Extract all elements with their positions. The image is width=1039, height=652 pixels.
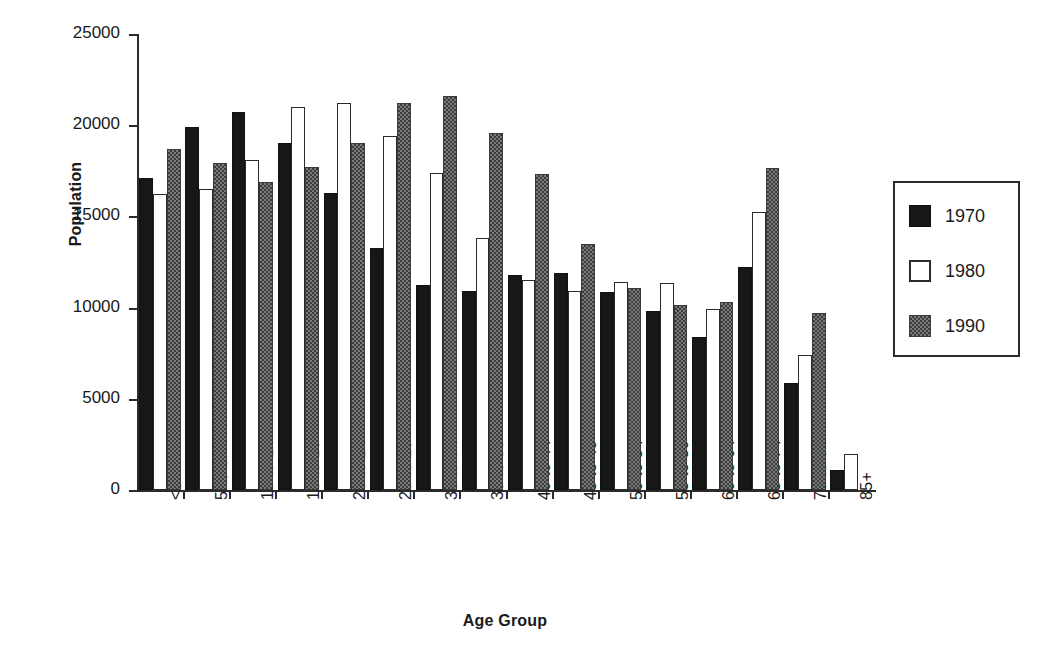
bar-group: [275, 34, 321, 490]
bar-group: [506, 34, 552, 490]
bar-group: [413, 34, 459, 490]
bar-group: [828, 34, 874, 490]
bar-group: [552, 34, 598, 490]
y-axis-tick-label: 10000: [30, 297, 120, 317]
bar-1970: [462, 291, 476, 490]
bar-group: [367, 34, 413, 490]
bar-group: [690, 34, 736, 490]
x-axis-category-label: 85+: [858, 472, 876, 500]
bar-1980: [522, 280, 536, 490]
legend-label-1990: 1990: [945, 316, 985, 337]
bar-group: [229, 34, 275, 490]
y-axis-tick-label: 25000: [30, 23, 120, 43]
bar-1990: [535, 174, 549, 490]
legend-label-1980: 1980: [945, 261, 985, 282]
bar-1980: [383, 136, 397, 490]
bar-1970: [692, 337, 706, 490]
bar-1970: [554, 273, 568, 490]
bar-group: [459, 34, 505, 490]
bar-1970: [324, 193, 338, 490]
bar-1970: [185, 127, 199, 490]
bar-1990: [213, 163, 227, 490]
bar-1980: [568, 291, 582, 490]
legend-swatch-1980: [909, 260, 931, 282]
bar-1980: [844, 454, 858, 490]
legend-swatch-1990: [909, 315, 931, 337]
bar-1970: [738, 267, 752, 490]
bar-group: [321, 34, 367, 490]
bar-1980: [199, 189, 213, 490]
bar-1980: [245, 160, 259, 490]
legend-item-1970: 1970: [909, 205, 985, 227]
bar-1990: [674, 305, 688, 490]
bar-1990: [397, 103, 411, 490]
bar-group: [644, 34, 690, 490]
legend-label-1970: 1970: [945, 206, 985, 227]
bar-1980: [476, 238, 490, 490]
bar-1990: [720, 302, 734, 490]
bar-1980: [153, 194, 167, 490]
bar-1990: [812, 313, 826, 490]
bar-1970: [416, 285, 430, 490]
bar-1990: [259, 182, 273, 490]
bar-1970: [784, 383, 798, 490]
y-axis-title: Population: [67, 134, 85, 274]
bar-1970: [232, 112, 246, 490]
y-axis-tick-label: 0: [30, 479, 120, 499]
bar-1970: [600, 292, 614, 490]
bar-1970: [508, 275, 522, 490]
y-axis-tick: 0: [129, 490, 139, 492]
plot-area: 0500010000150002000025000: [137, 34, 874, 491]
bar-1970: [139, 178, 153, 490]
population-by-age-group-bar-chart: Population Age Group 0500010000150002000…: [0, 0, 1039, 652]
bar-group: [598, 34, 644, 490]
bar-1990: [766, 168, 780, 490]
bar-1990: [581, 244, 595, 490]
bar-1980: [752, 212, 766, 490]
bar-1990: [167, 149, 181, 490]
bar-1990: [443, 96, 457, 490]
bar-group: [137, 34, 183, 490]
bar-1970: [278, 143, 292, 490]
legend-item-1980: 1980: [909, 260, 985, 282]
bar-1970: [830, 470, 844, 490]
bar-1990: [489, 133, 503, 491]
bar-1980: [291, 107, 305, 490]
x-axis-title: Age Group: [135, 612, 875, 630]
bar-1990: [628, 288, 642, 490]
bar-1970: [646, 311, 660, 490]
bar-1980: [660, 283, 674, 490]
bar-group: [183, 34, 229, 490]
bar-group: [782, 34, 828, 490]
bar-1990: [351, 143, 365, 490]
bar-1980: [430, 173, 444, 490]
y-axis-tick-label: 20000: [30, 114, 120, 134]
bar-1980: [706, 309, 720, 490]
bar-1970: [370, 248, 384, 490]
legend: 197019801990: [893, 181, 1020, 357]
bar-1980: [614, 282, 628, 490]
legend-item-1990: 1990: [909, 315, 985, 337]
bar-1980: [798, 355, 812, 490]
bar-1980: [337, 103, 351, 490]
y-axis-tick-label: 15000: [30, 205, 120, 225]
bar-group: [736, 34, 782, 490]
bar-1990: [305, 167, 319, 490]
y-axis-tick-label: 5000: [30, 388, 120, 408]
legend-swatch-1970: [909, 205, 931, 227]
